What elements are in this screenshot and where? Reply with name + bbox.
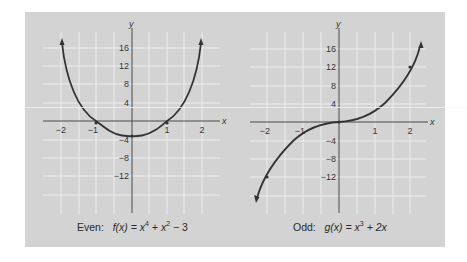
svg-text:−8: −8 — [326, 154, 336, 164]
svg-text:1: 1 — [164, 125, 169, 135]
x-axis-label: x — [221, 116, 227, 126]
caption-function: g(x) = x — [325, 221, 360, 233]
y-tick-labels: 16 12 8 4 −4 −8 −12 — [321, 44, 336, 182]
point-marker — [130, 134, 133, 137]
svg-text:−2: −2 — [260, 126, 270, 136]
svg-text:16: 16 — [119, 43, 129, 53]
odd-function-caption: Odd: g(x) = x3 + 2x — [293, 220, 387, 233]
x-tick-labels: −2 −1 1 2 — [260, 126, 413, 136]
point-marker — [337, 120, 340, 123]
x-axis-label: x — [429, 117, 435, 127]
y-axis-label: y — [335, 19, 341, 29]
even-function-caption: Even: f(x) = x4 + x2 − 3 — [77, 220, 188, 233]
point-marker — [265, 175, 268, 178]
point-marker — [408, 65, 411, 68]
svg-text:−4: −4 — [326, 136, 336, 146]
point-marker — [165, 121, 168, 124]
even-function-graph: x y 16 12 8 4 −4 −8 −12 −2 −1 1 2 — [43, 19, 227, 214]
arrow-icon — [60, 38, 65, 45]
arrow-icon — [199, 38, 204, 45]
svg-text:2: 2 — [199, 125, 204, 135]
svg-text:1: 1 — [372, 126, 377, 136]
svg-text:8: 8 — [124, 79, 129, 89]
y-tick-labels: 16 12 8 4 −4 −8 −12 — [114, 43, 129, 181]
svg-text:2: 2 — [407, 126, 412, 136]
x-tick-labels: −2 −1 1 2 — [56, 125, 205, 135]
svg-text:−8: −8 — [119, 153, 129, 163]
y-axis-label: y — [128, 19, 134, 29]
svg-text:−12: −12 — [114, 171, 129, 181]
axes — [43, 28, 220, 213]
svg-text:−12: −12 — [321, 172, 336, 182]
caption-label: Even: — [77, 221, 104, 233]
caption-term: + x — [149, 221, 166, 233]
svg-text:−1: −1 — [88, 125, 98, 135]
scan-artifact-line — [25, 107, 467, 108]
function-graphs: x y 16 12 8 4 −4 −8 −12 −2 −1 1 2 — [0, 0, 467, 262]
caption-term: − 3 — [170, 221, 188, 233]
point-marker — [94, 121, 97, 124]
svg-text:12: 12 — [119, 61, 129, 71]
svg-text:12: 12 — [326, 62, 336, 72]
odd-function-graph: x y 16 12 8 4 −4 −8 −12 −2 −1 1 2 — [250, 19, 435, 214]
svg-text:16: 16 — [326, 44, 336, 54]
svg-text:−2: −2 — [56, 125, 66, 135]
caption-function: f(x) = x — [113, 221, 145, 233]
svg-text:8: 8 — [331, 81, 336, 91]
caption-term: + 2x — [364, 221, 387, 233]
caption-label: Odd: — [293, 221, 316, 233]
arrow-icon — [419, 41, 424, 48]
